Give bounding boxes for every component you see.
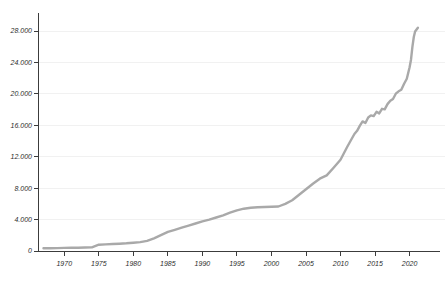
x-tick-label: 2005 (297, 260, 314, 267)
x-axis-labels: 1970197519801985199019952000200520102015… (56, 260, 417, 267)
x-tick-label: 1990 (195, 260, 211, 267)
x-tick-label: 2020 (401, 260, 418, 267)
chart-canvas: 04.0008.00012.00016.00020.00024.00028.00… (0, 0, 448, 284)
data-series-line (44, 28, 418, 249)
x-tick-label: 2000 (263, 260, 280, 267)
x-axis-ticks (64, 251, 409, 256)
x-tick-label: 1985 (160, 260, 176, 267)
y-tick-label: 8.000 (14, 185, 32, 192)
y-axis-ticks (34, 31, 39, 251)
line-chart: 04.0008.00012.00016.00020.00024.00028.00… (0, 0, 448, 284)
axis-frame (38, 13, 440, 251)
y-tick-label: 12.000 (11, 153, 33, 160)
x-tick-label: 1970 (56, 260, 72, 267)
y-tick-label: 20.000 (10, 90, 33, 97)
y-tick-label: 4.000 (14, 216, 32, 223)
y-axis-labels: 04.0008.00012.00016.00020.00024.00028.00… (10, 27, 33, 254)
data-series (44, 28, 418, 249)
y-tick-label: 24.000 (10, 59, 33, 66)
y-tick-label: 16.000 (11, 122, 33, 129)
x-tick-label: 1980 (126, 260, 142, 267)
y-tick-label: 0 (28, 247, 32, 254)
x-tick-label: 1995 (229, 260, 245, 267)
x-tick-label: 2015 (366, 260, 383, 267)
gridlines (38, 31, 445, 220)
axes (38, 13, 440, 251)
x-tick-label: 2010 (332, 260, 349, 267)
x-tick-label: 1975 (91, 260, 107, 267)
y-tick-label: 28.000 (10, 27, 33, 34)
